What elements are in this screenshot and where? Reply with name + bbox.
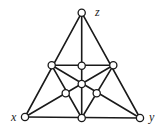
vertex-label-x: x [10,110,17,124]
vertex-lower-right-inner [93,90,100,97]
triangle-graph-diagram: zxy [0,0,163,138]
vertex-left-mid [48,62,55,69]
vertex-bottom-mid [78,114,85,121]
vertex-lower-left-inner [62,90,69,97]
vertex-label-y: y [148,110,155,124]
vertex-z [78,9,85,16]
vertex-top-inner [78,62,85,69]
vertex-label-z: z [94,5,100,19]
vertex-y [136,114,143,121]
vertex-center [78,80,85,87]
vertex-x [21,113,28,120]
vertex-right-mid [110,62,117,69]
